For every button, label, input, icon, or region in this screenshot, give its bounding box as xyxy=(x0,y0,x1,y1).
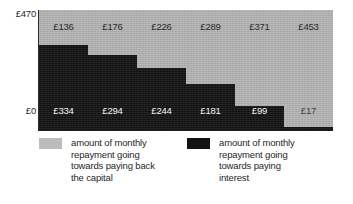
bar-value-label-interest: £99 xyxy=(235,105,284,116)
legend-label-interest-line-4: interest xyxy=(219,172,295,184)
bar-column: £289£181 xyxy=(186,10,235,131)
bar-segment-interest xyxy=(39,45,88,131)
bar-value-label-capital: £453 xyxy=(284,21,333,32)
bar-value-label-interest: £17 xyxy=(284,105,333,116)
bar-value-label-interest: £181 xyxy=(186,105,235,116)
bar-value-label-capital: £371 xyxy=(235,21,284,32)
bar-value-label-capital: £289 xyxy=(186,21,235,32)
bar-segment-interest xyxy=(284,127,333,131)
legend-swatch-capital xyxy=(39,138,62,149)
y-axis-bottom-tick-label: £0 xyxy=(26,106,36,116)
legend-label-interest: amount of monthly repayment going toward… xyxy=(219,137,295,183)
bar-value-label-interest: £244 xyxy=(137,105,186,116)
legend-item-interest: amount of monthly repayment going toward… xyxy=(187,137,342,183)
bar-column: £176£294 xyxy=(88,10,137,131)
legend: amount of monthly repayment going toward… xyxy=(39,137,339,197)
bar-value-label-interest: £334 xyxy=(39,105,88,116)
legend-label-capital-line-3: towards paying back xyxy=(71,160,155,172)
bar-column: £453£17 xyxy=(284,10,333,131)
plot-area: £136£334£176£294£226£244£289£181£371£99£… xyxy=(39,10,333,131)
legend-label-interest-line-3: towards paying xyxy=(219,160,295,172)
bar-value-label-capital: £136 xyxy=(39,21,88,32)
bar-segment-capital xyxy=(137,10,186,68)
bar-segment-interest xyxy=(137,68,186,131)
stacked-bar-chart: £470 £0 £136£334£176£294£226£244£289£181… xyxy=(0,0,353,204)
legend-label-interest-line-1: amount of monthly xyxy=(219,137,295,149)
y-axis-bottom-tick: £0 xyxy=(0,106,36,117)
y-axis-top-tick: £470 xyxy=(0,9,36,20)
bar-column: £136£334 xyxy=(39,10,88,131)
bar-segment-capital xyxy=(88,10,137,55)
legend-label-capital: amount of monthly repayment going toward… xyxy=(71,137,155,183)
bar-column: £371£99 xyxy=(235,10,284,131)
legend-label-capital-line-2: repayment going xyxy=(71,149,155,161)
legend-label-interest-line-2: repayment going xyxy=(219,149,295,161)
bar-value-label-capital: £176 xyxy=(88,21,137,32)
bar-segment-interest xyxy=(88,55,137,131)
legend-swatch-interest xyxy=(187,138,210,149)
legend-label-capital-line-1: amount of monthly xyxy=(71,137,155,149)
legend-item-capital: amount of monthly repayment going toward… xyxy=(39,137,189,183)
bar-value-label-interest: £294 xyxy=(88,105,137,116)
y-axis-top-tick-label: £470 xyxy=(16,9,36,19)
legend-label-capital-line-4: the capital xyxy=(71,172,155,184)
bar-value-label-capital: £226 xyxy=(137,21,186,32)
bar-column: £226£244 xyxy=(137,10,186,131)
